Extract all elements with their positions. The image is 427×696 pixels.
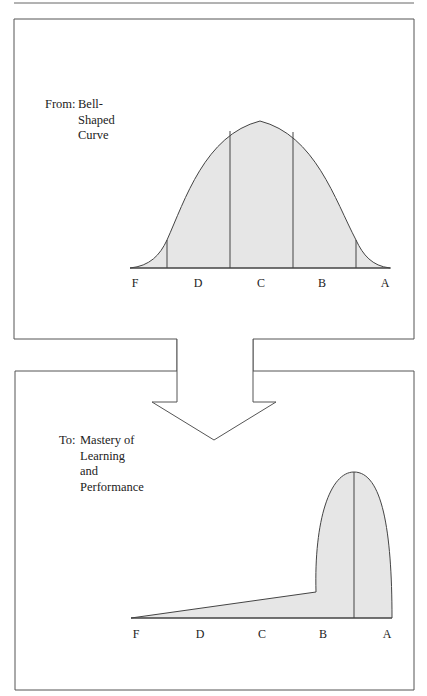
axis-label-f: F bbox=[132, 276, 139, 291]
to-description: Mastery of Learning and Performance bbox=[80, 433, 144, 495]
axis-label-a: A bbox=[381, 276, 390, 291]
axis-label-b: B bbox=[318, 276, 326, 291]
axis-label-c: C bbox=[258, 627, 266, 642]
axis-label-c: C bbox=[257, 276, 265, 291]
bell-curve bbox=[130, 121, 391, 268]
axis-label-f: F bbox=[133, 627, 140, 642]
axis-label-a: A bbox=[383, 627, 392, 642]
axis-label-b: B bbox=[319, 627, 327, 642]
from-description: Bell- Shaped Curve bbox=[78, 97, 115, 144]
axis-label-d: D bbox=[194, 276, 203, 291]
axis-label-d: D bbox=[196, 627, 205, 642]
to-label: To: bbox=[59, 433, 76, 449]
mastery-curve bbox=[131, 472, 392, 618]
down-arrow bbox=[152, 339, 276, 440]
from-label: From: bbox=[45, 97, 76, 113]
